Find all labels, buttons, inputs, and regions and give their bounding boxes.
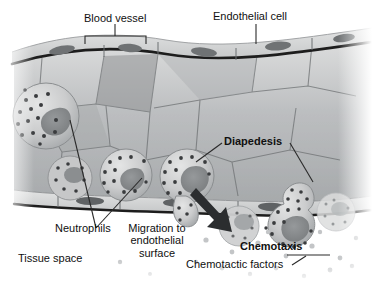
vignette-left	[0, 0, 34, 285]
vignette-right	[338, 0, 372, 285]
neutrophil-diapedesis-center	[160, 149, 214, 227]
label-migration-line1: Migration to	[118, 222, 196, 234]
label-chemotactic-factors: Chemotactic factors	[186, 258, 283, 270]
neutrophil-lumen-lower-left	[48, 156, 92, 200]
label-blood-vessel: Blood vessel	[84, 12, 146, 24]
neutrophil-rolling-center	[100, 149, 152, 201]
label-tissue-space: Tissue space	[18, 252, 82, 264]
label-migration-line2: endothelial	[118, 234, 196, 246]
label-migration-line3: surface	[118, 247, 196, 259]
label-migration: Migration to endothelial surface	[118, 222, 196, 259]
label-diapedesis: Diapedesis	[224, 135, 282, 147]
label-endothelial-cell: Endothelial cell	[213, 10, 287, 22]
figure-neutrophil-extravasation: Blood vessel Endothelial cell Diapedesis…	[0, 0, 372, 285]
label-neutrophils: Neutrophils	[55, 222, 111, 234]
label-chemotaxis: Chemotaxis	[240, 240, 302, 252]
